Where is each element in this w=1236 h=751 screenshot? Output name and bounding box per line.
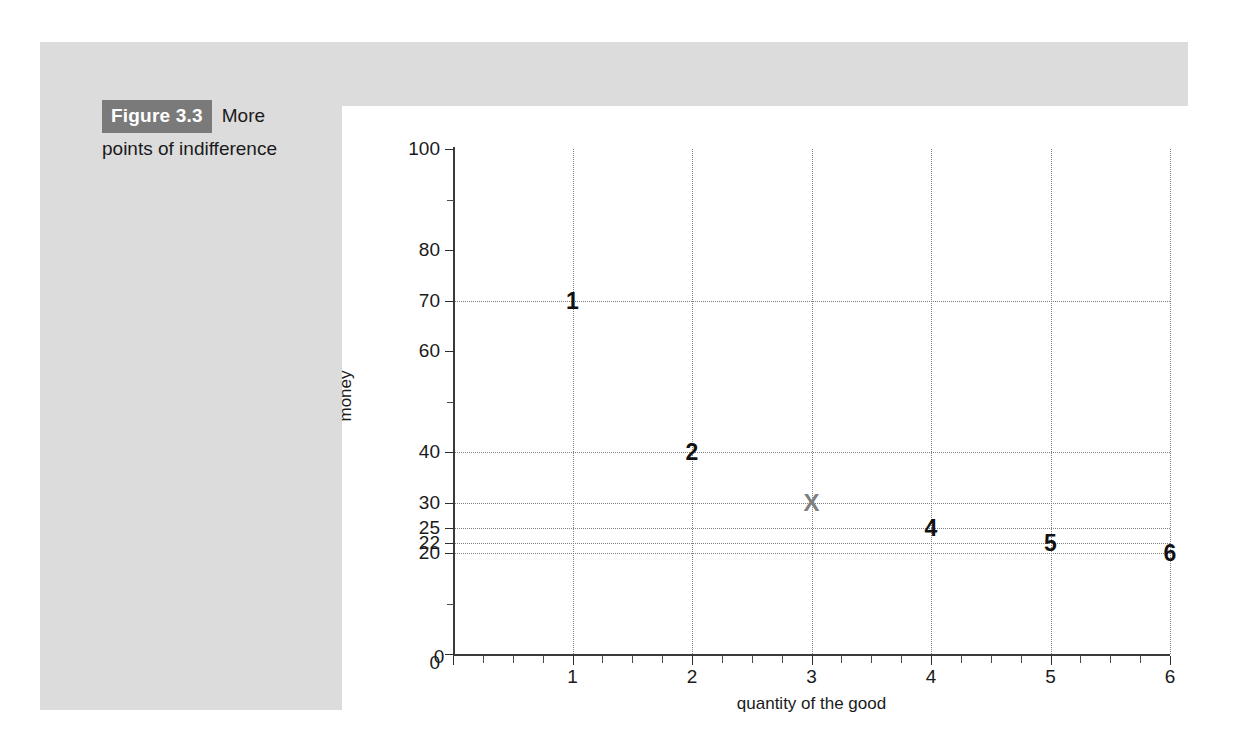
y-tick-major bbox=[445, 553, 454, 554]
x-tick-minor bbox=[722, 656, 723, 663]
x-tick-major bbox=[812, 656, 813, 665]
y-tick-label: 40 bbox=[419, 441, 440, 463]
gridline-vertical bbox=[692, 149, 693, 654]
x-tick-minor bbox=[841, 656, 842, 663]
x-tick-label: 3 bbox=[806, 666, 817, 688]
gridline-horizontal bbox=[454, 301, 1170, 302]
y-tick-major bbox=[445, 503, 454, 504]
plot-card: 0123456 02022253040607080100 12X456 mone… bbox=[342, 106, 1202, 732]
x-tick-label: 6 bbox=[1165, 666, 1176, 688]
x-tick-minor bbox=[543, 656, 544, 663]
y-tick-label: 30 bbox=[419, 492, 440, 514]
x-tick-minor bbox=[1110, 656, 1111, 663]
plot-area: 0123456 02022253040607080100 12X456 mone… bbox=[342, 106, 1202, 732]
y-tick-major bbox=[445, 149, 454, 150]
y-tick-minor bbox=[447, 402, 454, 403]
x-tick-minor bbox=[752, 656, 753, 663]
gridline-horizontal bbox=[454, 543, 1170, 544]
x-tick-major bbox=[573, 656, 574, 665]
x-tick-minor bbox=[901, 656, 902, 663]
data-point-2: 2 bbox=[686, 441, 699, 464]
y-axis-title: money bbox=[336, 370, 356, 421]
x-axis-title: quantity of the good bbox=[453, 694, 1170, 714]
x-tick-major bbox=[1170, 656, 1171, 665]
x-tick-minor bbox=[871, 656, 872, 663]
figure-caption-first-line: More bbox=[222, 105, 265, 126]
gridline-horizontal bbox=[454, 528, 1170, 529]
x-tick-minor bbox=[991, 656, 992, 663]
figure-panel: Figure 3.3More points of indifference 01… bbox=[40, 42, 1188, 710]
y-tick-major bbox=[445, 528, 454, 529]
x-tick-minor bbox=[1140, 656, 1141, 663]
y-tick-label: 25 bbox=[419, 517, 440, 539]
gridline-vertical bbox=[812, 149, 813, 654]
y-tick-minor bbox=[447, 200, 454, 201]
gridline-horizontal bbox=[454, 452, 1170, 453]
x-tick-minor bbox=[1021, 656, 1022, 663]
x-tick-label: 5 bbox=[1045, 666, 1056, 688]
data-point-x: X bbox=[803, 491, 819, 515]
y-tick-major bbox=[445, 301, 454, 302]
figure-number-badge: Figure 3.3 bbox=[102, 100, 212, 133]
data-point-1: 1 bbox=[566, 289, 579, 312]
gridline-vertical bbox=[1170, 149, 1171, 654]
y-tick-major bbox=[445, 654, 454, 655]
y-tick-major bbox=[445, 543, 454, 544]
data-point-5: 5 bbox=[1044, 531, 1057, 554]
x-tick-major bbox=[1051, 656, 1052, 665]
gridline-horizontal bbox=[454, 553, 1170, 554]
y-tick-minor bbox=[447, 604, 454, 605]
x-tick-minor bbox=[1080, 656, 1081, 663]
y-tick-label: 80 bbox=[419, 239, 440, 261]
y-tick-label: 100 bbox=[408, 138, 440, 160]
x-tick-minor bbox=[782, 656, 783, 663]
y-tick-major bbox=[445, 351, 454, 352]
x-tick-major bbox=[453, 656, 454, 665]
x-tick-major bbox=[931, 656, 932, 665]
data-point-4: 4 bbox=[925, 516, 938, 539]
y-tick-label: 0 bbox=[429, 652, 440, 674]
x-tick-label: 4 bbox=[926, 666, 937, 688]
x-tick-label: 1 bbox=[567, 666, 578, 688]
figure-caption-rest: points of indifference bbox=[102, 136, 332, 162]
y-tick-label: 70 bbox=[419, 290, 440, 312]
x-tick-minor bbox=[662, 656, 663, 663]
figure-caption: Figure 3.3More points of indifference bbox=[102, 100, 332, 161]
y-tick-major bbox=[445, 250, 454, 251]
x-tick-label: 2 bbox=[687, 666, 698, 688]
gridline-vertical bbox=[573, 149, 574, 654]
y-tick-label: 60 bbox=[419, 340, 440, 362]
x-tick-minor bbox=[961, 656, 962, 663]
gridline-vertical bbox=[1051, 149, 1052, 654]
data-point-6: 6 bbox=[1164, 542, 1177, 565]
x-tick-minor bbox=[632, 656, 633, 663]
x-tick-minor bbox=[483, 656, 484, 663]
y-tick-major bbox=[445, 452, 454, 453]
gridline-vertical bbox=[931, 149, 932, 654]
x-tick-minor bbox=[513, 656, 514, 663]
x-tick-minor bbox=[602, 656, 603, 663]
x-tick-major bbox=[692, 656, 693, 665]
